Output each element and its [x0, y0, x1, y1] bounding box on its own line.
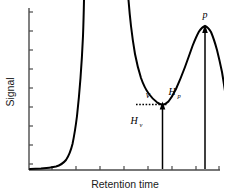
chart-canvas: v p H v H p Signal Retention time [0, 0, 224, 194]
first-peak-trace [30, 0, 84, 169]
chromatogram-figure: v p H v H p Signal Retention time [0, 0, 224, 194]
valley-point-label: v [146, 89, 151, 100]
valley-height-subscript: v [140, 121, 143, 128]
peak-point-label: p [202, 9, 208, 20]
peak-height-measure [202, 25, 208, 170]
valley-height-symbol: H [129, 115, 138, 126]
x-axis-title: Retention time [91, 178, 159, 190]
valley-height-measure [160, 102, 166, 170]
peak-height-symbol: H [167, 86, 176, 97]
y-axis-title: Signal [4, 77, 16, 106]
valley-arrowhead-icon [160, 102, 166, 110]
valley-height-label: H v [129, 115, 142, 128]
axes-group [29, 8, 220, 170]
peak-arrowhead-icon [202, 25, 208, 34]
peak-height-label: H p [167, 86, 181, 99]
second-peak-trace [129, 0, 225, 105]
peak-height-subscript: p [176, 92, 181, 99]
